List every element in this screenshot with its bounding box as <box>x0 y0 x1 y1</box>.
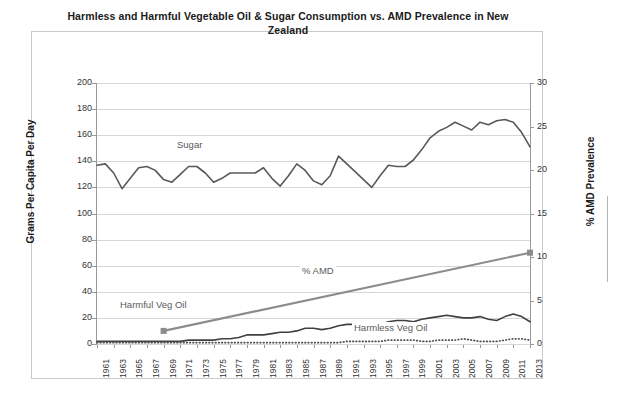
y-tick-left <box>92 240 96 241</box>
y-tick-right <box>530 127 534 128</box>
y-tick-left <box>92 318 96 319</box>
amd-marker-end <box>527 250 533 256</box>
y-tick-left <box>92 83 96 84</box>
x-tick-label: 2003 <box>451 359 461 378</box>
x-tick-label: 1977 <box>234 359 244 378</box>
x-tick-label: 2011 <box>517 360 527 378</box>
chart-screenshot: Harmless and Harmful Vegetable Oil & Sug… <box>0 0 633 409</box>
series-label-sugar: Sugar <box>175 139 204 150</box>
x-tick-label: 1991 <box>351 359 361 378</box>
series-line-harmful-veg-oil <box>97 314 530 341</box>
y-tick-label-left: 180 <box>52 103 92 113</box>
y-tick-label-right: 5 <box>537 295 567 305</box>
x-tick-label: 1969 <box>168 359 178 378</box>
x-tick-label: 2007 <box>484 359 494 378</box>
y-tick-left <box>92 292 96 293</box>
x-tick-label: 1989 <box>334 359 344 378</box>
x-tick-label: 1979 <box>251 359 261 378</box>
y-tick-right <box>530 301 534 302</box>
y-tick-label-left: 80 <box>52 234 92 244</box>
y-tick-left <box>92 109 96 110</box>
y-tick-left <box>92 214 96 215</box>
y-tick-right <box>530 170 534 171</box>
chart-title: Harmless and Harmful Vegetable Oil & Sug… <box>55 9 521 37</box>
x-tick-label: 1965 <box>134 359 144 378</box>
series-label-amd: % AMD <box>300 265 336 276</box>
y-axis-left-ticks: 200180160140120100806040200 <box>48 0 92 409</box>
y-tick-label-left: 0 <box>52 338 92 348</box>
y-tick-label-left: 100 <box>52 208 92 218</box>
x-tick-label: 2005 <box>467 359 477 378</box>
x-tick-label: 1995 <box>384 359 394 378</box>
x-tick <box>530 344 531 348</box>
series-line-sugar <box>97 120 530 189</box>
y-tick-label-left: 40 <box>52 286 92 296</box>
y-tick-label-right: 15 <box>537 208 567 218</box>
y-tick-label-left: 120 <box>52 181 92 191</box>
y-tick-left <box>92 135 96 136</box>
x-tick-label: 1999 <box>417 359 427 378</box>
y-tick-left <box>92 266 96 267</box>
x-tick-label: 1987 <box>318 359 328 378</box>
y-tick-right <box>530 83 534 84</box>
series-label-harmful-veg-oil: Harmful Veg Oil <box>118 299 189 310</box>
y-tick-label-left: 140 <box>52 155 92 165</box>
x-tick-label: 1973 <box>201 359 211 378</box>
x-tick-label: 1993 <box>368 359 378 378</box>
right-edge-rule <box>607 196 608 282</box>
y-tick-right <box>530 257 534 258</box>
x-tick-label: 2001 <box>434 359 444 378</box>
y-tick-label-right: 30 <box>537 77 567 87</box>
y-tick-label-right: 20 <box>537 164 567 174</box>
y-tick-label-left: 20 <box>52 312 92 322</box>
x-tick-label: 2013 <box>534 359 544 378</box>
x-tick-label: 1961 <box>101 359 111 378</box>
y-tick-right <box>530 214 534 215</box>
x-tick-label: 1981 <box>268 359 278 378</box>
x-tick-label: 1983 <box>284 359 294 378</box>
y-tick-left <box>92 187 96 188</box>
amd-marker-start <box>161 328 167 334</box>
gridline <box>97 344 530 345</box>
y-tick-label-right: 25 <box>537 121 567 131</box>
x-tick-label: 1975 <box>218 359 228 378</box>
x-tick-label: 1997 <box>401 359 411 378</box>
y-tick-label-left: 200 <box>52 77 92 87</box>
y-tick-left <box>92 344 96 345</box>
y-axis-title-right: % AMD Prevalence <box>585 87 596 277</box>
x-tick-label: 1985 <box>301 359 311 378</box>
series-label-harmless-veg-oil: Harmless Veg Oil <box>352 322 429 333</box>
y-tick-label-right: 0 <box>537 338 567 348</box>
y-tick-label-left: 60 <box>52 260 92 270</box>
y-tick-label-left: 160 <box>52 129 92 139</box>
x-tick-label: 1963 <box>118 359 128 378</box>
y-tick-left <box>92 161 96 162</box>
y-axis-title-left: Grams Per Capita Per Day <box>25 87 36 277</box>
y-tick-label-right: 10 <box>537 251 567 261</box>
x-tick-label: 2009 <box>501 359 511 378</box>
x-tick-label: 1967 <box>151 359 161 378</box>
y-axis-right-ticks: 302520151050 <box>537 0 567 409</box>
x-tick-label: 1971 <box>184 359 194 378</box>
series-line-amd <box>164 253 530 331</box>
